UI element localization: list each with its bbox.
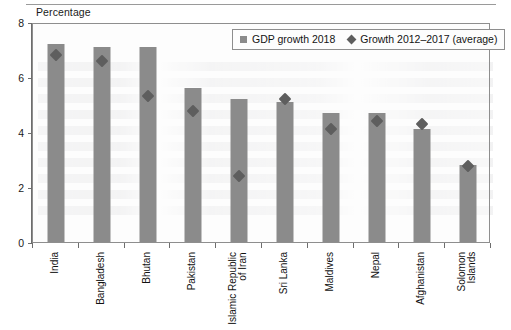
diamond-series-layer [33, 24, 489, 242]
datapoint-islamic-republic-of-iran [233, 170, 246, 183]
x-tick-2 [124, 243, 125, 248]
x-tick-3 [169, 243, 170, 248]
diamond-marker-icon [347, 34, 357, 44]
datapoint-nepal [370, 115, 383, 128]
x-tick-10 [490, 243, 491, 248]
x-tick-7 [353, 243, 354, 248]
x-tick-8 [398, 243, 399, 248]
x-axis-label-solomon-islands: Solomon Islands [457, 252, 478, 291]
legend-label-0: GDP growth 2018 [252, 33, 335, 45]
x-tick-0 [32, 243, 33, 248]
x-tick-4 [215, 243, 216, 248]
x-axis: IndiaBangladeshBhutanPakistanIslamic Rep… [32, 243, 490, 328]
chart-plot-area [32, 23, 490, 243]
square-marker-icon [240, 36, 247, 43]
y-axis-title: Percentage [36, 6, 91, 18]
x-axis-label-islamic-republic-of-iran: Islamic Republic of Iran [228, 252, 249, 325]
y-tick-label-0: 0 [18, 237, 24, 249]
x-axis-label-maldives: Maldives [324, 252, 335, 291]
y-axis: 02468 [0, 23, 32, 243]
x-axis-label-nepal: Nepal [370, 252, 381, 278]
x-axis-label-india: India [50, 252, 61, 274]
x-tick-6 [307, 243, 308, 248]
datapoint-solomon-islands [462, 160, 475, 173]
page-header-rule [26, 4, 496, 5]
datapoint-afghanistan [416, 117, 429, 130]
y-tick-4 [28, 133, 32, 134]
x-axis-label-bangladesh: Bangladesh [95, 252, 106, 305]
datapoint-bhutan [141, 90, 154, 103]
x-tick-5 [261, 243, 262, 248]
x-axis-label-bhutan: Bhutan [141, 252, 152, 284]
datapoint-bangladesh [95, 54, 108, 67]
y-tick-label-8: 8 [18, 17, 24, 29]
legend-label-1: Growth 2012–2017 (average) [360, 33, 497, 45]
x-axis-label-sri-lanka: Sri Lanka [279, 252, 290, 294]
datapoint-sri-lanka [279, 93, 292, 106]
datapoint-pakistan [187, 105, 200, 118]
y-tick-6 [28, 78, 32, 79]
x-axis-label-pakistan: Pakistan [187, 252, 198, 290]
y-tick-label-4: 4 [18, 127, 24, 139]
x-tick-9 [444, 243, 445, 248]
y-tick-2 [28, 188, 32, 189]
legend-item-0: GDP growth 2018 [240, 33, 335, 45]
x-axis-label-afghanistan: Afghanistan [416, 252, 427, 305]
x-tick-1 [78, 243, 79, 248]
chart-legend: GDP growth 2018 Growth 2012–2017 (averag… [232, 29, 505, 50]
datapoint-india [50, 49, 63, 62]
y-tick-label-6: 6 [18, 72, 24, 84]
y-tick-8 [28, 23, 32, 24]
legend-item-1: Growth 2012–2017 (average) [348, 33, 497, 45]
datapoint-maldives [324, 123, 337, 136]
y-tick-label-2: 2 [18, 182, 24, 194]
